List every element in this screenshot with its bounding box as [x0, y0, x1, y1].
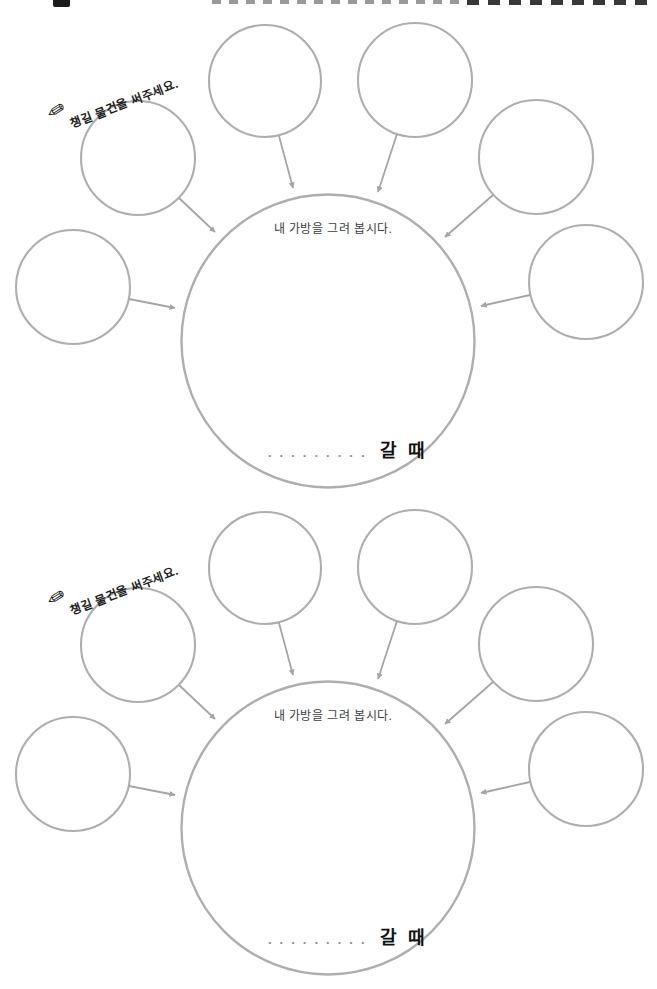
when-label: 갈 때: [380, 928, 428, 950]
when-line: ......... 갈 때: [268, 441, 428, 463]
organizer-diagram-2: [0, 487, 657, 987]
worksheet-section-1: ✎ 챙길 물건을 써주세요. 내 가방을 그려 봅시다. ......... 갈…: [0, 0, 657, 500]
when-label: 갈 때: [380, 441, 428, 463]
center-instruction: 내 가방을 그려 봅시다.: [233, 706, 433, 723]
when-line: ......... 갈 때: [268, 928, 428, 950]
blank-dots: .........: [268, 933, 373, 946]
blank-dots: .........: [268, 446, 373, 459]
center-instruction: 내 가방을 그려 봅시다.: [233, 219, 433, 236]
worksheet-section-2: ✎ 챙길 물건을 써주세요. 내 가방을 그려 봅시다. ......... 갈…: [0, 487, 657, 987]
organizer-diagram-1: [0, 0, 657, 500]
